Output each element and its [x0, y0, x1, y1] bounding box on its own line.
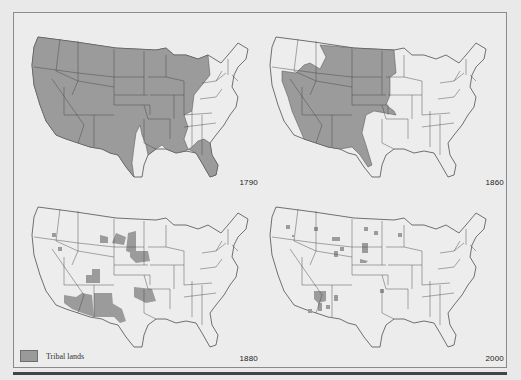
- bottom-rule: [13, 372, 507, 375]
- us-map-1860: [262, 15, 508, 191]
- map-panel-1860: 1860: [262, 15, 508, 191]
- figure-frame: 1790 1860 1880 Tribal lands 2000: [13, 12, 507, 368]
- year-label-2000: 2000: [485, 354, 504, 363]
- legend: Tribal lands: [20, 350, 84, 362]
- us-map-1790: [16, 15, 262, 191]
- year-label-1880: 1880: [239, 354, 258, 363]
- us-map-2000: [262, 191, 508, 367]
- legend-label: Tribal lands: [46, 352, 84, 361]
- year-label-1790: 1790: [239, 178, 258, 187]
- map-panel-2000: 2000: [262, 191, 508, 367]
- year-label-1860: 1860: [485, 178, 504, 187]
- map-panel-1880: 1880 Tribal lands: [16, 191, 262, 367]
- map-panel-1790: 1790: [16, 15, 262, 191]
- legend-swatch-tribal-lands: [20, 350, 38, 362]
- us-map-1880: [16, 191, 262, 367]
